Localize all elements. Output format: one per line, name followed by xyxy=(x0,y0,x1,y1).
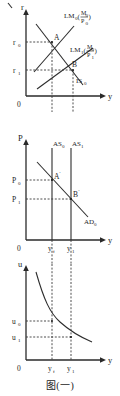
panel2-origin-label: 0 xyxy=(17,244,21,253)
panel2-y-axis-arrow xyxy=(23,139,29,145)
label-lm1-paren-close: ) xyxy=(95,47,98,55)
figure-container: r y 0 r 0 r 1 A B LM 0 ( M 0 xyxy=(0,0,120,396)
point-b-label: B xyxy=(72,60,77,69)
panel1-origin-label: 0 xyxy=(17,100,21,109)
panel2-tick-p1-base: P xyxy=(12,195,16,204)
panel2-y-axis-label: P xyxy=(18,133,23,143)
panel1-y-axis-arrow xyxy=(23,9,29,15)
economics-diagram: r y 0 r 0 r 1 A B LM 0 ( M 0 xyxy=(0,0,120,396)
panel3-tick-u1-sub: 1 xyxy=(18,338,21,343)
label-as1-main: AS xyxy=(72,140,81,148)
panel1-stray-mark xyxy=(8,3,12,8)
panel3-tick-y1-base: y xyxy=(67,364,71,373)
point-a-prime-mark: ' xyxy=(60,171,61,176)
label-lm1: LM 1 ( M 0 P 1 ) xyxy=(70,44,98,60)
point-a-label: A xyxy=(54,33,60,42)
panel-okun: u y 0 u 0 u 1 y f y 1 xyxy=(12,259,113,374)
label-is0-main: IS xyxy=(76,77,82,85)
panel2-tick-yf: y f xyxy=(48,244,55,254)
curve-ad0 xyxy=(37,162,88,217)
label-as0-sub: 0 xyxy=(62,144,65,149)
point-a-prime-marker xyxy=(51,179,53,181)
panel2-tick-yf-sub: f xyxy=(53,249,55,254)
label-is0-sub: 0 xyxy=(84,81,87,86)
panel1-tick-r0-base: r xyxy=(13,38,16,47)
label-as1-sub: 1 xyxy=(81,144,84,149)
point-b-marker xyxy=(72,69,74,71)
point-b-prime-label: B ' xyxy=(73,189,80,199)
label-lm0-denominator-sub: 0 xyxy=(86,21,89,26)
panel3-tick-y1: y 1 xyxy=(67,364,75,374)
label-lm0: LM 0 ( M 0 P 0 ) xyxy=(64,10,92,26)
panel3-tick-u1: u 1 xyxy=(12,333,21,343)
panel1-tick-r0: r 0 xyxy=(13,38,21,48)
panel2-tick-yf-base: y xyxy=(48,244,52,253)
panel1-tick-r1-base: r xyxy=(13,66,16,75)
panel3-tick-u0-sub: 0 xyxy=(18,322,21,327)
panel3-x-axis-label: y xyxy=(108,355,113,365)
panel3-x-axis-arrow xyxy=(100,357,106,362)
panel2-tick-y1-base: y xyxy=(67,244,71,253)
label-ad0-sub: 0 xyxy=(94,222,97,227)
label-as0: AS 0 xyxy=(53,140,65,149)
panel2-tick-p0-sub: 0 xyxy=(18,181,21,186)
panel-is-lm: r y 0 r 0 r 1 A B LM 0 ( M 0 xyxy=(8,2,113,112)
panel3-y-axis-arrow xyxy=(23,265,29,271)
panel3-tick-yf-base: y xyxy=(48,364,52,373)
point-a-prime-label: A ' xyxy=(54,171,61,181)
point-b-prime-base: B xyxy=(73,190,78,199)
panel3-tick-yf-sub: f xyxy=(53,369,55,374)
panel1-tick-r0-sub: 0 xyxy=(18,43,21,48)
label-lm1-main: LM xyxy=(70,46,81,54)
curve-unemployment xyxy=(36,272,92,342)
panel1-tick-r1-sub: 1 xyxy=(18,71,21,76)
label-ad0-main: AD xyxy=(84,218,94,226)
panel2-tick-p0-base: P xyxy=(12,176,16,185)
panel3-point-0 xyxy=(51,320,53,322)
panel2-tick-p0: P 0 xyxy=(12,176,21,186)
panel3-tick-yf: y f xyxy=(48,364,55,374)
panel2-tick-p1: P 1 xyxy=(12,195,21,205)
label-lm0-main: LM xyxy=(64,12,75,20)
panel2-tick-p1-sub: 1 xyxy=(18,200,21,205)
panel3-tick-u0: u 0 xyxy=(12,317,21,327)
point-b-prime-mark: ' xyxy=(79,189,80,194)
point-b-prime-marker xyxy=(70,198,72,200)
label-lm1-denominator-sub: 1 xyxy=(92,55,95,60)
panel2-x-axis-label: y xyxy=(108,235,113,245)
figure-caption: 图(一) xyxy=(0,377,120,392)
point-a-marker xyxy=(51,41,53,43)
panel3-point-1 xyxy=(70,336,72,338)
label-ad0: AD 0 xyxy=(84,218,97,227)
panel1-x-axis-arrow xyxy=(100,93,106,98)
panel3-tick-y1-sub: 1 xyxy=(72,369,75,374)
panel1-y-axis-label: r xyxy=(21,2,24,12)
label-as1: AS 1 xyxy=(72,140,84,149)
panel1-x-axis-label: y xyxy=(108,91,113,101)
label-lm0-denominator: P xyxy=(81,18,85,24)
label-lm0-paren-close: ) xyxy=(89,13,92,21)
panel3-origin-label: 0 xyxy=(17,364,21,373)
panel3-tick-u0-base: u xyxy=(12,317,16,326)
label-as0-main: AS xyxy=(53,140,62,148)
panel3-y-axis-label: u xyxy=(18,259,23,269)
panel3-tick-u1-base: u xyxy=(12,333,16,342)
curve-is0 xyxy=(36,24,83,85)
label-lm1-denominator: P xyxy=(87,52,91,58)
panel1-tick-r1: r 1 xyxy=(13,66,21,76)
label-is0: IS 0 xyxy=(76,77,87,86)
panel2-tick-y1-sub: 1 xyxy=(72,249,75,254)
panel-ad-as: P y 0 P 0 P 1 y f y 1 AS xyxy=(12,133,113,264)
panel2-x-axis-arrow xyxy=(100,237,106,242)
